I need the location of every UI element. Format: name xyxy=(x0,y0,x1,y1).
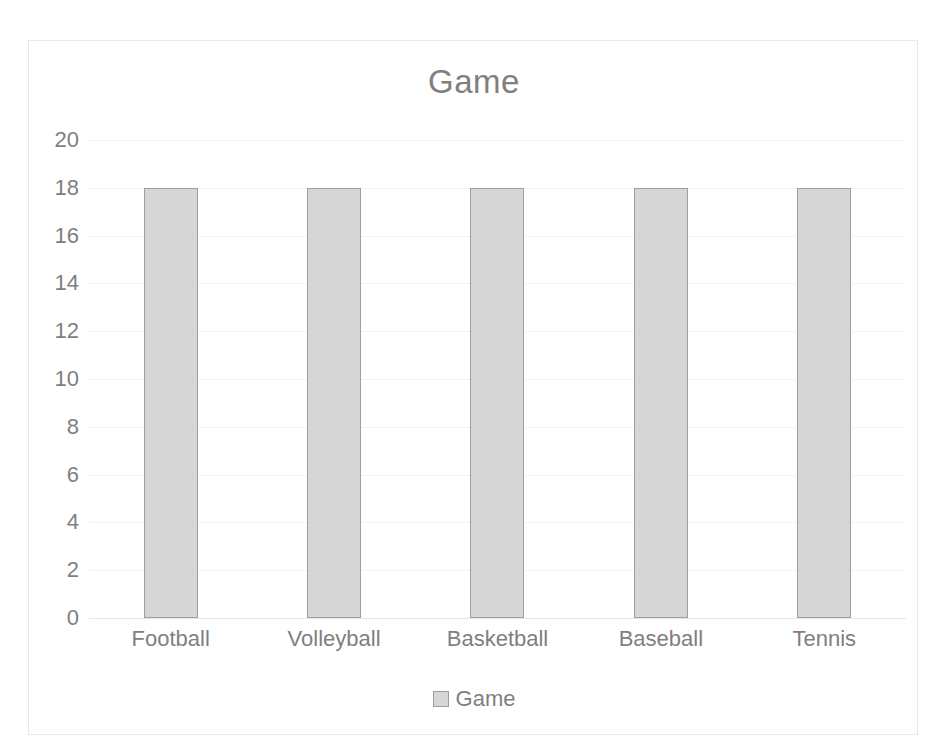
y-axis-tick-label: 14 xyxy=(29,270,79,296)
x-axis-tick-label: Basketball xyxy=(447,626,549,652)
x-axis-tick-label: Volleyball xyxy=(288,626,381,652)
bar[interactable] xyxy=(307,188,361,618)
bar-slot xyxy=(416,140,579,618)
bar-slot xyxy=(252,140,415,618)
y-axis-tick-label: 12 xyxy=(29,318,79,344)
y-axis: 02468101214161820 xyxy=(29,140,79,618)
y-axis-tick-label: 0 xyxy=(29,605,79,631)
bar[interactable] xyxy=(144,188,198,618)
legend-label: Game xyxy=(456,686,516,712)
y-axis-tick-label: 2 xyxy=(29,557,79,583)
y-axis-tick-label: 18 xyxy=(29,175,79,201)
plot-area xyxy=(89,140,906,618)
y-axis-tick-label: 16 xyxy=(29,223,79,249)
bar-slot xyxy=(743,140,906,618)
y-axis-tick-label: 4 xyxy=(29,509,79,535)
x-axis: FootballVolleyballBasketballBaseballTenn… xyxy=(89,626,906,666)
y-axis-tick-label: 8 xyxy=(29,414,79,440)
gridline xyxy=(89,618,906,619)
x-axis-tick-label: Baseball xyxy=(619,626,703,652)
chart-container: Game 02468101214161820 FootballVolleybal… xyxy=(28,40,918,735)
chart-title: Game xyxy=(29,63,919,101)
legend-swatch-icon xyxy=(433,691,449,707)
y-axis-tick-label: 6 xyxy=(29,462,79,488)
x-axis-tick-label: Tennis xyxy=(793,626,857,652)
bar[interactable] xyxy=(797,188,851,618)
bar[interactable] xyxy=(470,188,524,618)
x-axis-tick-label: Football xyxy=(132,626,210,652)
bar-slot xyxy=(579,140,742,618)
y-axis-tick-label: 10 xyxy=(29,366,79,392)
bar-series-game xyxy=(89,140,906,618)
bar-slot xyxy=(89,140,252,618)
chart-legend: Game xyxy=(29,686,919,712)
y-axis-tick-label: 20 xyxy=(29,127,79,153)
bar[interactable] xyxy=(634,188,688,618)
